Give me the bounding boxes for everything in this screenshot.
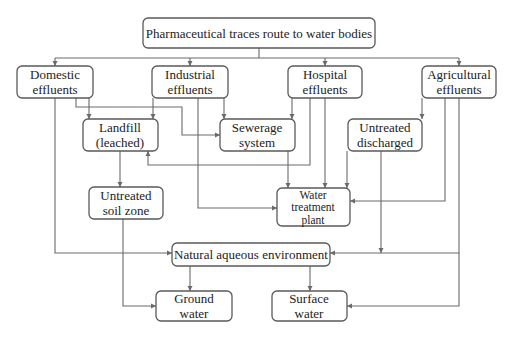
node-agricultural-label-1: Agricultural (427, 67, 491, 82)
edges (55, 48, 459, 306)
node-surface-label-2: water (295, 306, 325, 321)
node-natural-label: Natural aqueous environment (174, 247, 328, 262)
node-wtp-label-2: treatment (291, 201, 335, 213)
node-domestic: Domestic effluents (17, 66, 93, 98)
node-water-treatment-plant: Water treatment plant (277, 188, 350, 227)
flow-diagram: Pharmaceutical traces route to water bod… (0, 0, 513, 340)
node-domestic-label-1: Domestic (30, 67, 80, 82)
node-root-label: Pharmaceutical traces route to water bod… (146, 26, 372, 41)
node-wtp-label-3: plant (302, 214, 326, 227)
edge-agricultural-surface (347, 253, 459, 306)
node-hospital: Hospital effluents (288, 66, 362, 98)
node-hospital-label-1: Hospital (303, 67, 347, 82)
node-ground-label-2: water (180, 306, 210, 321)
node-industrial-label-2: effluents (167, 82, 212, 97)
node-ground-label-1: Ground (174, 291, 214, 306)
node-untreated-soil: Untreated soil zone (89, 187, 163, 219)
node-natural-aqueous: Natural aqueous environment (172, 243, 330, 266)
node-sewerage: Sewerage system (220, 119, 295, 151)
node-untreated-discharged-label-1: Untreated (359, 120, 411, 135)
node-industrial-label-1: Industrial (165, 67, 215, 82)
node-landfill-label-2: (leached) (96, 135, 144, 150)
node-surface-water: Surface water (272, 291, 347, 321)
node-sewerage-label-1: Sewerage (232, 120, 283, 135)
node-root: Pharmaceutical traces route to water bod… (143, 18, 375, 48)
node-wtp-label-1: Water (299, 189, 326, 201)
node-agricultural-label-2: effluents (436, 82, 481, 97)
node-untreated-soil-label-2: soil zone (103, 203, 150, 218)
edge-soil-ground (123, 219, 156, 306)
node-agricultural: Agricultural effluents (422, 66, 496, 98)
node-sewerage-label-2: system (239, 135, 275, 150)
node-landfill: Landfill (leached) (83, 119, 158, 151)
node-hospital-label-2: effluents (302, 82, 347, 97)
node-industrial: Industrial effluents (152, 66, 228, 98)
node-untreated-discharged-label-2: discharged (357, 135, 414, 150)
node-untreated-discharged: Untreated discharged (348, 119, 422, 151)
edge-industrial-wtp (198, 98, 277, 208)
node-landfill-label-1: Landfill (99, 120, 141, 135)
node-ground-water: Ground water (156, 291, 232, 321)
node-untreated-soil-label-1: Untreated (100, 188, 152, 203)
node-domestic-label-2: effluents (32, 82, 77, 97)
node-surface-label-1: Surface (289, 291, 329, 306)
